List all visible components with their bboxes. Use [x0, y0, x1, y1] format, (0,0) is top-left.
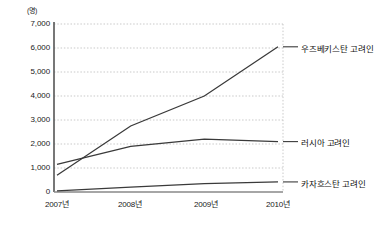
x-tick-label: 2009년 [194, 198, 218, 209]
x-tick-label: 2008년 [118, 198, 142, 209]
series-label-uzbekistan: 우즈베키스탄 고려인 [301, 42, 373, 54]
x-tick-label: 2010년 [266, 198, 290, 209]
x-tick-label: 2007년 [45, 198, 69, 209]
series-label-kazakhstan: 카자흐스탄 고려인 [301, 177, 366, 189]
series-label-russia: 러시아 고려인 [301, 136, 350, 148]
x-axis-tick-labels: 2007년 2008년 2009년 2010년 [0, 0, 389, 227]
line-chart: (명) 7,000 6,000 5,000 4,000 3,000 2,000 … [0, 0, 389, 227]
